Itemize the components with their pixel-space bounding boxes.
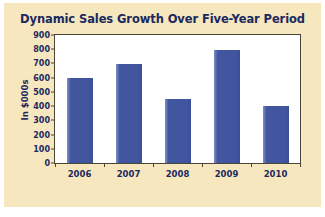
y-axis-tick-mark [51,148,55,149]
plot-inner: 0100200300400500600700800900 20062007200… [55,35,300,163]
chart-figure: Dynamic Sales Growth Over Five-Year Peri… [0,0,325,217]
y-axis-tick-label: 0 [16,159,55,168]
x-axis-tick-mark [55,163,56,167]
chart-panel: Dynamic Sales Growth Over Five-Year Peri… [4,3,321,207]
bar-2007 [116,64,142,163]
y-axis-tick-label: 100 [16,144,55,153]
x-axis-tick-mark [251,163,252,167]
bar-2009 [214,50,240,163]
y-axis-tick-mark [51,120,55,121]
y-axis-tick-mark [51,91,55,92]
y-axis-tick-mark [51,134,55,135]
bar-2010 [263,106,289,163]
chart-title: Dynamic Sales Growth Over Five-Year Peri… [4,12,321,26]
y-axis-tick-label: 800 [16,45,55,54]
y-axis-tick-label: 700 [16,59,55,68]
y-axis-tick-label: 900 [16,31,55,40]
x-axis-tick-mark [153,163,154,167]
x-axis-tick-mark [104,163,105,167]
y-axis-tick-label: 500 [16,87,55,96]
y-axis-tick-label: 200 [16,130,55,139]
y-axis-tick-label: 600 [16,73,55,82]
x-axis-tick-mark [300,163,301,167]
x-axis-tick-label-2008: 2008 [166,169,190,179]
y-axis-tick-mark [51,77,55,78]
y-axis-tick-label: 300 [16,116,55,125]
y-axis-tick-mark [51,106,55,107]
x-axis-tick-label-2009: 2009 [215,169,239,179]
x-axis-tick-label-2007: 2007 [117,169,141,179]
y-axis-tick-mark [51,35,55,36]
y-axis-tick-mark [51,63,55,64]
x-axis-tick-label-2006: 2006 [68,169,92,179]
y-axis-tick-mark [51,49,55,50]
bar-2006 [67,78,93,163]
plot-area: 0100200300400500600700800900 20062007200… [54,34,301,164]
bar-2008 [165,99,191,163]
x-axis-tick-label-2010: 2010 [264,169,288,179]
y-axis-tick-label: 400 [16,102,55,111]
x-axis-tick-mark [202,163,203,167]
